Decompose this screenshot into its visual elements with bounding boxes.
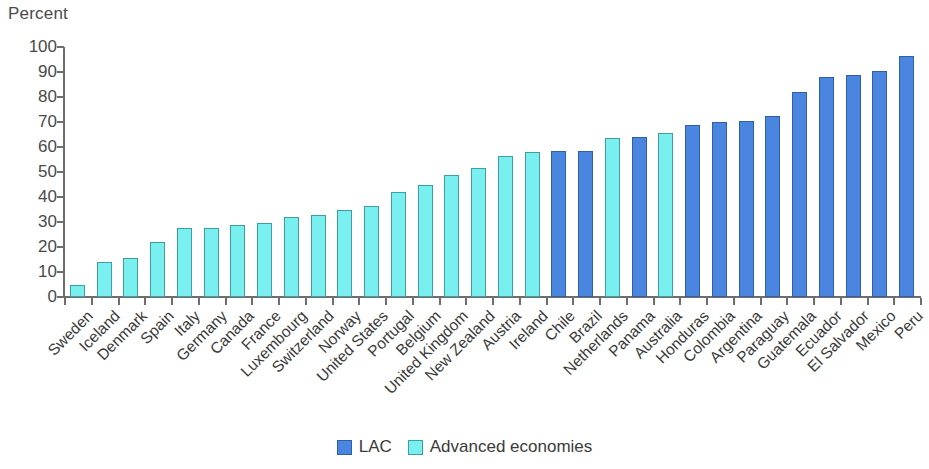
x-axis-tick-mark <box>920 298 922 305</box>
y-axis-tick-mark <box>57 296 64 298</box>
x-axis-tick-mark <box>385 298 387 305</box>
legend-swatch-lac <box>337 440 352 455</box>
x-axis-tick-mark <box>278 298 280 305</box>
x-axis-tick-mark <box>251 298 253 305</box>
x-axis-tick-mark <box>412 298 414 305</box>
x-axis-tick-mark <box>626 298 628 305</box>
x-axis-tick-mark <box>546 298 548 305</box>
x-axis-tick-mark <box>358 298 360 305</box>
y-axis-tick-mark <box>57 121 64 123</box>
bar-italy[interactable] <box>177 228 192 297</box>
bar-chile[interactable] <box>551 151 566 297</box>
x-axis-tick-mark <box>733 298 735 305</box>
bar-el-salvador[interactable] <box>846 75 861 298</box>
bar-spain[interactable] <box>150 242 165 297</box>
bar-colombia[interactable] <box>712 122 727 297</box>
x-axis-tick-mark <box>572 298 574 305</box>
bar-denmark[interactable] <box>123 258 138 297</box>
bar-ireland[interactable] <box>525 152 540 297</box>
x-axis-tick-mark <box>653 298 655 305</box>
bar-norway[interactable] <box>337 210 352 298</box>
x-axis-tick-mark <box>786 298 788 305</box>
bar-brazil[interactable] <box>578 151 593 297</box>
bar-netherlands[interactable] <box>605 138 620 297</box>
bar-switzerland[interactable] <box>311 215 326 298</box>
bar-argentina[interactable] <box>739 121 754 297</box>
legend-swatch-adv <box>408 440 423 455</box>
bar-honduras[interactable] <box>685 125 700 298</box>
bar-guatemala[interactable] <box>792 92 807 297</box>
y-axis-tick-mark <box>57 221 64 223</box>
bar-sweden[interactable] <box>70 285 85 298</box>
bar-mexico[interactable] <box>872 71 887 297</box>
x-axis-tick-mark <box>760 298 762 305</box>
bar-portugal[interactable] <box>391 192 406 297</box>
bar-united-kingdom[interactable] <box>444 175 459 298</box>
y-axis-tick-mark <box>57 96 64 98</box>
y-axis-tick-mark <box>57 46 64 48</box>
bar-new-zealand[interactable] <box>471 168 486 297</box>
x-axis-tick-mark <box>599 298 601 305</box>
x-axis-tick-mark <box>840 298 842 305</box>
x-axis-tick-mark <box>519 298 521 305</box>
bar-france[interactable] <box>257 223 272 297</box>
x-axis-tick-mark <box>706 298 708 305</box>
x-axis-tick-mark <box>144 298 146 305</box>
y-axis-tick-mark <box>57 71 64 73</box>
x-axis-tick-mark <box>64 298 66 305</box>
x-axis-tick-mark <box>867 298 869 305</box>
y-axis-tick-mark <box>57 271 64 273</box>
bar-paraguay[interactable] <box>765 116 780 297</box>
legend-label-lac: LAC <box>359 437 392 457</box>
y-axis-tick-mark <box>57 246 64 248</box>
bar-australia[interactable] <box>658 133 673 297</box>
bar-peru[interactable] <box>899 56 914 297</box>
x-axis-tick-mark <box>893 298 895 305</box>
x-axis-tick-mark <box>171 298 173 305</box>
x-axis-tick-mark <box>679 298 681 305</box>
bar-ecuador[interactable] <box>819 77 834 297</box>
bar-panama[interactable] <box>632 137 647 297</box>
x-axis-tick-mark <box>91 298 93 305</box>
legend-item-adv[interactable]: Advanced economies <box>408 437 593 457</box>
bar-belgium[interactable] <box>418 185 433 298</box>
bar-united-states[interactable] <box>364 206 379 297</box>
x-axis-tick-mark <box>225 298 227 305</box>
x-axis-tick-mark <box>198 298 200 305</box>
x-axis-tick-mark <box>305 298 307 305</box>
x-axis-tick-mark <box>439 298 441 305</box>
y-axis-tick-mark <box>57 171 64 173</box>
x-axis-tick-mark <box>465 298 467 305</box>
x-axis-tick-mark <box>332 298 334 305</box>
x-axis-tick-mark <box>118 298 120 305</box>
bar-austria[interactable] <box>498 156 513 297</box>
bar-germany[interactable] <box>204 228 219 297</box>
legend-label-adv: Advanced economies <box>430 437 593 457</box>
plot-area <box>64 47 920 297</box>
bar-iceland[interactable] <box>97 262 112 297</box>
x-axis-tick-mark <box>813 298 815 305</box>
y-axis-tick-mark <box>57 146 64 148</box>
y-axis-tick-mark <box>57 196 64 198</box>
bar-chart: Percent 0102030405060708090100 SwedenIce… <box>0 0 929 469</box>
legend-item-lac[interactable]: LAC <box>337 437 392 457</box>
x-axis-tick-mark <box>492 298 494 305</box>
chart-legend: LACAdvanced economies <box>0 437 929 457</box>
bar-luxembourg[interactable] <box>284 217 299 297</box>
bar-canada[interactable] <box>230 225 245 298</box>
